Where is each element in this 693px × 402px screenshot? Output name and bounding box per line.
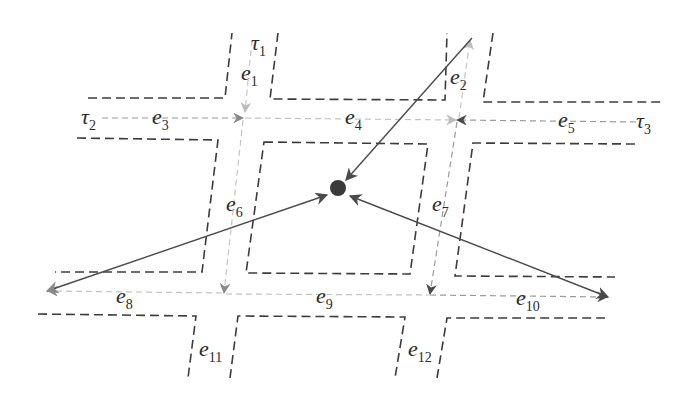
label-e10: e10 xyxy=(516,285,540,314)
label-e4: e4 xyxy=(345,104,362,133)
label-e3: e3 xyxy=(152,104,169,133)
road-network-diagram: τ1 τ2 τ3 e1 e2 e3 e4 e5 e6 e7 e8 e9 e10 … xyxy=(0,0,693,402)
road-boundary xyxy=(270,33,447,100)
road-boundary xyxy=(55,138,218,272)
edge-arrows xyxy=(48,40,636,297)
label-e6: e6 xyxy=(226,191,243,220)
center-block-boundary xyxy=(246,142,428,274)
label-tau2: τ2 xyxy=(81,104,96,133)
trajectory-arrow-from-node-right xyxy=(350,196,608,297)
label-e7: e7 xyxy=(432,191,449,220)
road-boundary xyxy=(437,318,605,378)
label-e12: e12 xyxy=(408,336,432,365)
label-e5: e5 xyxy=(558,107,575,136)
edge-e9-line xyxy=(226,294,430,295)
road-boundary xyxy=(483,33,662,102)
road-boundaries xyxy=(38,33,662,378)
edge-e8-arrow xyxy=(48,291,222,293)
trajectory-arrow-from-node-left xyxy=(47,195,327,291)
trajectory-arrow-to-node-from-top xyxy=(346,38,472,180)
label-tau3: τ3 xyxy=(636,108,651,137)
road-boundary xyxy=(38,314,196,378)
labels: τ1 τ2 τ3 e1 e2 e3 e4 e5 e6 e7 e8 e9 e10 … xyxy=(81,30,651,365)
trajectory-arrows xyxy=(47,38,608,297)
label-e9: e9 xyxy=(316,283,333,312)
center-node xyxy=(330,180,346,196)
label-e8: e8 xyxy=(116,283,133,312)
road-boundary xyxy=(230,316,405,378)
edge-e5-arrow xyxy=(457,120,636,122)
label-e11: e11 xyxy=(199,336,222,365)
label-e2: e2 xyxy=(450,64,467,93)
road-boundary xyxy=(88,33,232,98)
label-e1: e1 xyxy=(241,60,258,89)
road-boundary xyxy=(455,143,635,277)
label-tau1: τ1 xyxy=(251,30,266,59)
